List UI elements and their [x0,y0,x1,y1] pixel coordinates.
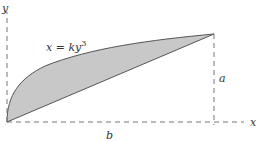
width-label-b: b [106,129,113,142]
curve-equation-label: x = ky3 [46,39,86,54]
x-axis-label: x [250,116,257,129]
diagram-canvas: y x x = ky3 a b [0,0,261,142]
height-label-a: a [219,72,226,85]
shaded-region [7,34,214,122]
y-axis-label: y [1,2,9,15]
